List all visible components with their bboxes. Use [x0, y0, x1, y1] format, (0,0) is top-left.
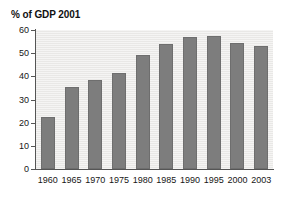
- x-axis-tick-label: 1985: [153, 176, 179, 185]
- y-axis-tick: [31, 100, 35, 101]
- y-axis-line: [35, 29, 36, 170]
- bar-1980: [136, 55, 150, 169]
- y-axis-tick: [31, 76, 35, 77]
- bar-2003: [254, 46, 268, 169]
- bar-1985: [159, 44, 173, 169]
- y-axis-tick-label: 40: [3, 72, 29, 81]
- x-axis-tick-label: 1990: [177, 176, 203, 185]
- y-axis-tick-label: 0: [3, 165, 29, 174]
- bar-1995: [207, 36, 221, 169]
- bar-1965: [65, 87, 79, 169]
- x-axis-tick-label: 1970: [82, 176, 108, 185]
- x-axis-tick-label: 1975: [106, 176, 132, 185]
- y-axis-tick-label: 50: [3, 49, 29, 58]
- bar-1970: [88, 80, 102, 169]
- y-axis-tick: [31, 30, 35, 31]
- y-axis-tick: [31, 53, 35, 54]
- y-axis-labels: 0102030405060: [0, 0, 29, 200]
- x-axis-tick-label: 1965: [59, 176, 85, 185]
- bar-2000: [230, 43, 244, 169]
- bar-1975: [112, 73, 126, 169]
- x-axis-tick-label: 1960: [35, 176, 61, 185]
- x-axis-tick-label: 1995: [201, 176, 227, 185]
- y-axis-tick: [31, 123, 35, 124]
- y-axis-tick-label: 60: [3, 26, 29, 35]
- x-axis-tick-label: 1980: [130, 176, 156, 185]
- x-axis-tick-label: 2003: [248, 176, 274, 185]
- y-axis-tick-label: 10: [3, 142, 29, 151]
- y-axis-tick: [31, 169, 35, 170]
- x-axis-line: [35, 169, 274, 170]
- bar-chart-figure: % of GDP 2001 0102030405060 196019651970…: [0, 0, 286, 200]
- y-axis-tick-label: 20: [3, 119, 29, 128]
- y-axis-tick-label: 30: [3, 96, 29, 105]
- y-axis-tick: [31, 146, 35, 147]
- plot-area: [36, 30, 273, 169]
- bar-1960: [41, 117, 55, 169]
- x-axis-tick-label: 2000: [224, 176, 250, 185]
- bar-1990: [183, 37, 197, 169]
